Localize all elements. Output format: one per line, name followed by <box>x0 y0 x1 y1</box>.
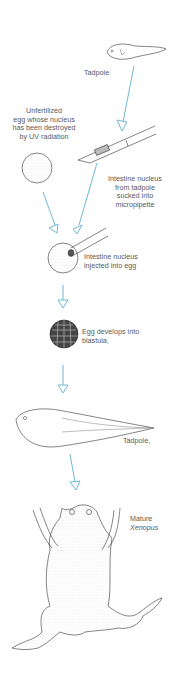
label-line: micropipette <box>95 201 175 210</box>
label-intestine-sucked: Intestine nucleus from tadpole sucked in… <box>95 175 175 209</box>
arrow-icon <box>58 285 68 308</box>
label-mature-xenopus: Mature Xenopus <box>130 515 158 532</box>
label-tadpole-bottom: Tadpole, <box>123 437 150 446</box>
label-line: by UV radiation <box>4 133 84 142</box>
arrow-icon <box>117 66 134 131</box>
label-tadpole-top: Tadpole <box>84 69 109 78</box>
label-blastula: Egg develops into blastula, <box>82 328 139 345</box>
label-species: Xenopus <box>130 523 158 532</box>
tadpole-top-icon <box>107 44 166 59</box>
label-line: injected into egg <box>84 262 138 271</box>
arrow-icon <box>70 454 80 490</box>
label-unfertilized-egg: Unfertilized egg whose nucleus has been … <box>4 107 84 141</box>
unfertilized-egg-icon <box>22 153 52 183</box>
label-line: blastula, <box>82 337 139 346</box>
blastula-icon <box>50 320 78 348</box>
arrow-icon <box>58 365 68 393</box>
label-intestine-injected: Intestine nucleus injected into egg <box>84 253 138 270</box>
micropipette-icon <box>78 126 156 163</box>
